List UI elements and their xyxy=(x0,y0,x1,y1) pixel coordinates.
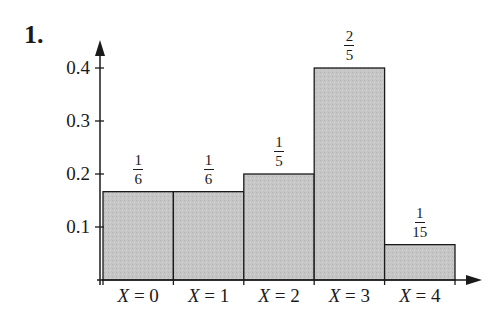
y-tick-label: 0.1 xyxy=(40,216,90,238)
bar-2 xyxy=(244,174,314,280)
value-label: 16 xyxy=(118,152,158,187)
histogram-plot xyxy=(0,0,496,315)
value-label: 25 xyxy=(329,28,369,63)
y-tick-label: 0.4 xyxy=(40,57,90,79)
bar-3 xyxy=(314,68,384,280)
y-tick-label: 0.3 xyxy=(40,110,90,132)
y-axis-arrow-icon xyxy=(95,40,105,56)
x-axis-arrow-icon xyxy=(466,275,482,285)
x-tick-label: X = 2 xyxy=(243,285,315,307)
bar-4 xyxy=(385,245,455,280)
x-tick-label: X = 3 xyxy=(313,285,385,307)
bar-1 xyxy=(173,192,243,280)
value-label: 115 xyxy=(400,205,440,240)
x-tick-label: X = 1 xyxy=(173,285,245,307)
bar-0 xyxy=(103,192,173,280)
x-tick-label: X = 4 xyxy=(384,285,456,307)
x-tick-label: X = 0 xyxy=(102,285,174,307)
y-tick-label: 0.2 xyxy=(40,163,90,185)
value-label: 15 xyxy=(259,134,299,169)
value-label: 16 xyxy=(189,152,229,187)
